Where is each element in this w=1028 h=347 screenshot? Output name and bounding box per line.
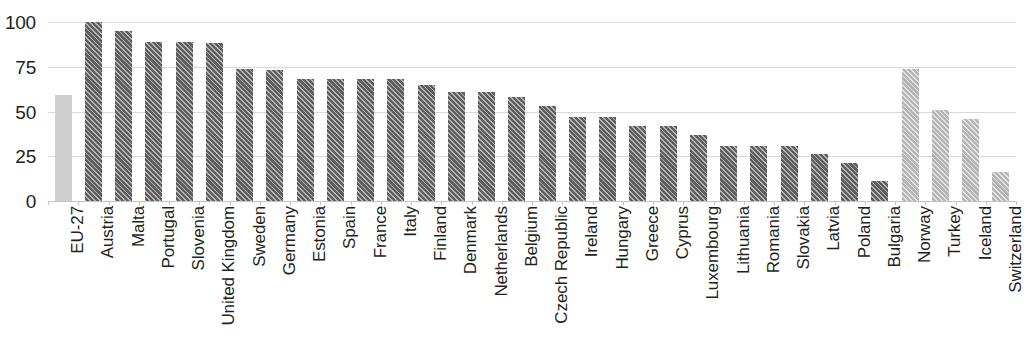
y-tick-label-25: 25 — [15, 147, 36, 166]
x-tick-label-slovenia: Slovenia — [190, 206, 207, 270]
y-axis: 0255075100 — [0, 22, 42, 201]
x-tick-label-italy: Italy — [402, 206, 419, 237]
x-tick — [562, 201, 563, 205]
x-tick-label-norway: Norway — [916, 206, 933, 263]
bar-hungary — [599, 117, 616, 201]
bar-iceland — [962, 119, 979, 201]
bar-estonia — [297, 79, 314, 201]
y-tick-label-0: 0 — [26, 192, 36, 211]
x-tick — [109, 201, 110, 205]
bar-czech-republic — [539, 106, 556, 201]
y-tick-label-100: 100 — [5, 13, 36, 32]
x-tick — [411, 201, 412, 205]
x-tick-label-switzerland: Switzerland — [1007, 206, 1024, 293]
x-tick — [865, 201, 866, 205]
x-tick — [623, 201, 624, 205]
x-tick-label-romania: Romania — [765, 206, 782, 273]
x-tick — [532, 201, 533, 205]
y-tick-label-75: 75 — [15, 57, 36, 76]
x-tick-label-spain: Spain — [341, 206, 358, 249]
x-tick — [1016, 201, 1017, 205]
x-tick-label-slovakia: Slovakia — [795, 206, 812, 269]
x-tick-label-ireland: Ireland — [583, 206, 600, 257]
x-axis-labels: EU-27AustriaMaltaPortugalSloveniaUnited … — [48, 206, 1016, 347]
x-tick-label-czech-republic: Czech Republic — [553, 206, 570, 324]
x-tick — [48, 201, 49, 205]
x-tick-label-bulgaria: Bulgaria — [886, 206, 903, 268]
x-tick — [441, 201, 442, 205]
y-tick-label-50: 50 — [15, 102, 36, 121]
bar-germany — [266, 70, 283, 201]
x-tick-label-poland: Poland — [856, 206, 873, 258]
x-tick — [381, 201, 382, 205]
bar-norway — [902, 69, 919, 201]
bar-france — [357, 79, 374, 201]
x-tick-label-luxembourg: Luxembourg — [704, 206, 721, 300]
bar-romania — [750, 146, 767, 201]
x-tick — [139, 201, 140, 205]
bar-austria — [85, 22, 102, 201]
bar-poland — [841, 163, 858, 201]
bar-united-kingdom — [206, 43, 223, 201]
x-tick-label-denmark: Denmark — [462, 206, 479, 274]
bar-bulgaria — [871, 181, 888, 201]
bar-sweden — [236, 69, 253, 201]
x-tick — [986, 201, 987, 205]
x-tick — [774, 201, 775, 205]
x-tick-label-france: France — [372, 206, 389, 258]
x-tick-label-sweden: Sweden — [251, 206, 268, 267]
x-tick-label-lithuania: Lithuania — [735, 206, 752, 274]
x-tick-label-finland: Finland — [432, 206, 449, 261]
bar-spain — [327, 79, 344, 201]
x-tick — [351, 201, 352, 205]
bar-denmark — [448, 92, 465, 201]
x-tick — [169, 201, 170, 205]
bar-eu-27 — [55, 95, 72, 201]
bar-switzerland — [992, 172, 1009, 201]
x-tick-label-portugal: Portugal — [160, 206, 177, 269]
x-tick — [956, 201, 957, 205]
x-tick — [472, 201, 473, 205]
x-tick — [714, 201, 715, 205]
x-tick — [683, 201, 684, 205]
bar-cyprus — [660, 126, 677, 201]
x-tick-label-eu-27: EU-27 — [69, 206, 86, 254]
x-tick-label-cyprus: Cyprus — [674, 206, 691, 259]
bar-portugal — [145, 42, 162, 201]
bar-slovenia — [176, 42, 193, 201]
x-tick-label-united-kingdom: United Kingdom — [220, 206, 237, 326]
x-tick-label-greece: Greece — [644, 206, 661, 261]
bar-greece — [629, 126, 646, 201]
bar-turkey — [932, 110, 949, 201]
x-tick — [593, 201, 594, 205]
x-tick — [260, 201, 261, 205]
x-tick-label-turkey: Turkey — [946, 206, 963, 257]
x-tick — [804, 201, 805, 205]
x-tick — [895, 201, 896, 205]
bar-italy — [387, 79, 404, 201]
bar-latvia — [811, 154, 828, 201]
bar-finland — [418, 85, 435, 201]
x-tick-label-iceland: Iceland — [977, 206, 994, 260]
x-tick-label-hungary: Hungary — [614, 206, 631, 270]
x-tick-label-belgium: Belgium — [523, 206, 540, 267]
x-tick — [925, 201, 926, 205]
bar-lithuania — [720, 146, 737, 201]
x-tick — [744, 201, 745, 205]
bar-ireland — [569, 117, 586, 201]
bar-series — [48, 22, 1016, 201]
x-tick-label-estonia: Estonia — [311, 206, 328, 262]
bar-belgium — [508, 97, 525, 201]
x-tick-label-netherlands: Netherlands — [493, 206, 510, 297]
bar-malta — [115, 31, 132, 201]
x-tick — [835, 201, 836, 205]
bar-chart: 0255075100 EU-27AustriaMaltaPortugalSlov… — [0, 0, 1028, 347]
x-tick — [320, 201, 321, 205]
x-tick — [199, 201, 200, 205]
x-tick — [78, 201, 79, 205]
x-tick-label-germany: Germany — [281, 206, 298, 275]
x-tick-label-austria: Austria — [99, 206, 116, 258]
x-tick — [230, 201, 231, 205]
x-tick-label-malta: Malta — [130, 206, 147, 247]
x-tick — [502, 201, 503, 205]
